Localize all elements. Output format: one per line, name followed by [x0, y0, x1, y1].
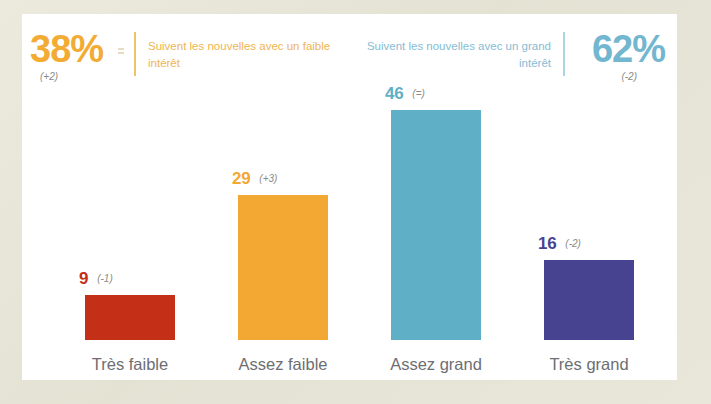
bar-value-row: 9(-1) — [79, 269, 113, 289]
right-group-delta: (-2) — [621, 71, 637, 82]
bar-group: 46(=) — [373, 90, 499, 340]
bar-group: 9(-1) — [67, 90, 193, 340]
category-label: Très faible — [67, 355, 193, 374]
bar-value-row: 46(=) — [385, 84, 425, 104]
double-chevron-icon — [116, 45, 126, 59]
right-group-percent: 62% — [592, 30, 665, 68]
bar-value-label: 9 — [79, 269, 88, 288]
bar-delta-label: (+3) — [259, 173, 277, 184]
bar-value-row: 16(-2) — [538, 234, 581, 254]
bar-group: 16(-2) — [526, 90, 652, 340]
bar[interactable] — [544, 260, 634, 340]
bar-delta-label: (-1) — [97, 273, 113, 284]
category-label: Assez grand — [373, 355, 499, 374]
right-divider — [563, 32, 565, 76]
bar-value-label: 29 — [232, 169, 250, 188]
bar-delta-label: (-2) — [565, 238, 581, 249]
bar-value-label: 16 — [538, 234, 556, 253]
bar-value-label: 46 — [385, 84, 403, 103]
chart-header: 38% (+2) Suivent les nouvelles avec un f… — [22, 14, 677, 86]
bar-group: 29(+3) — [220, 90, 346, 340]
category-label: Assez faible — [220, 355, 346, 374]
category-label: Très grand — [526, 355, 652, 374]
bar-value-row: 29(+3) — [232, 169, 277, 189]
chart-root: 38% (+2) Suivent les nouvelles avec un f… — [0, 0, 711, 404]
bar[interactable] — [85, 295, 175, 340]
bar-delta-label: (=) — [412, 88, 425, 99]
chart-panel: 38% (+2) Suivent les nouvelles avec un f… — [22, 14, 677, 380]
left-group-legend: Suivent les nouvelles avec un faible int… — [148, 38, 343, 71]
left-group-delta: (+2) — [40, 71, 58, 82]
bar-plot-area: 9(-1)Très faible29(+3)Assez faible46(=)A… — [22, 86, 677, 380]
bar[interactable] — [238, 195, 328, 340]
bar[interactable] — [391, 110, 481, 340]
right-group-legend: Suivent les nouvelles avec un grand inté… — [356, 38, 551, 71]
left-divider — [134, 32, 136, 76]
left-group-percent: 38% — [30, 30, 103, 68]
